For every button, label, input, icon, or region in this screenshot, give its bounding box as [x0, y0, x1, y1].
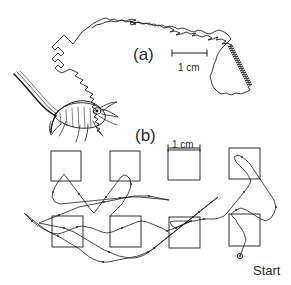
search-square-8	[229, 214, 260, 246]
mosquito-larva-drawing	[14, 71, 118, 142]
step-marker	[198, 211, 200, 213]
step-marker	[275, 206, 277, 208]
search-square-6	[110, 216, 141, 247]
step-marker	[78, 193, 80, 195]
step-marker	[148, 195, 150, 197]
step-marker	[58, 214, 60, 216]
step-marker	[192, 216, 194, 218]
step-marker	[166, 230, 168, 232]
step-marker	[52, 191, 54, 193]
movement-track-figure: (a) 1 cm (b) 1 cm Start	[0, 0, 291, 285]
step-marker	[130, 183, 132, 185]
panel-a-scale-label: 1 cm	[178, 63, 200, 73]
step-marker	[147, 251, 149, 253]
panel-a-random-walk-track	[52, 18, 252, 133]
step-marker	[241, 156, 243, 158]
step-marker	[121, 227, 123, 229]
step-marker	[243, 191, 245, 193]
step-marker	[63, 227, 65, 229]
step-marker	[153, 247, 155, 249]
panel-a-scale-bar	[172, 50, 207, 57]
search-square-4	[229, 148, 260, 179]
step-marker	[57, 235, 59, 237]
step-marker	[119, 197, 121, 199]
search-square-5	[52, 216, 83, 247]
panel-a-label: (a)	[133, 46, 154, 63]
step-marker	[102, 261, 104, 263]
step-marker	[203, 218, 205, 220]
search-square-2	[110, 151, 140, 181]
step-marker	[105, 196, 107, 198]
step-marker	[239, 255, 241, 257]
panel-b-scale-label: 1 cm	[172, 140, 194, 150]
step-marker	[108, 251, 110, 253]
step-marker	[175, 227, 177, 229]
step-marker	[76, 226, 78, 228]
search-square-3	[168, 150, 200, 180]
step-marker	[235, 209, 237, 211]
panel-a-track-layer	[52, 18, 252, 133]
step-marker	[31, 220, 33, 222]
panel-b-label: (b)	[135, 127, 156, 144]
start-label: Start	[253, 264, 280, 277]
step-marker	[103, 201, 105, 203]
